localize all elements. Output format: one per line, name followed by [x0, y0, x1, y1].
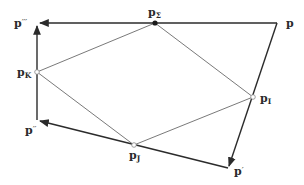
label-p-prime: p′ [234, 165, 244, 178]
edge-p-sigma-to-p-I [155, 23, 253, 97]
point-p-I-marker [251, 95, 256, 100]
edge-p-I-to-p-J [134, 97, 253, 145]
label-p-triple-prime: p′′′ [14, 17, 27, 30]
label-p-K: pK [17, 66, 32, 80]
label-p-I: pI [260, 92, 272, 106]
point-p-J-marker [132, 143, 137, 148]
label-p-J: pJ [129, 149, 141, 163]
label-p-double-prime: p′′ [25, 124, 37, 137]
vector-diagram: p pΣ p′′′ pK p′′ pJ pI p′ [0, 0, 304, 185]
edge-p-J-to-p-K [37, 72, 134, 145]
edge-p-K-to-p-sigma [37, 23, 155, 72]
point-p-sigma-marker [152, 20, 157, 25]
point-p-K-marker [35, 70, 40, 75]
label-p: p [286, 17, 294, 30]
label-p-sigma: pΣ [148, 6, 161, 20]
